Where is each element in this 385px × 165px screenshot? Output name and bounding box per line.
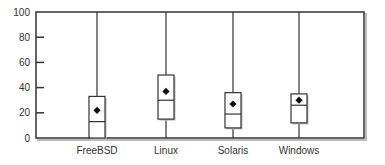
box-plot-chart: 020406080100 FreeBSDLinuxSolarisWindows	[0, 0, 385, 165]
x-category-label: FreeBSD	[76, 145, 117, 156]
y-tick-label: 80	[19, 32, 31, 43]
iqr-box	[158, 75, 174, 119]
y-tick-label: 20	[19, 107, 31, 118]
x-axis: FreeBSDLinuxSolarisWindows	[76, 145, 319, 156]
x-category-label: Windows	[279, 145, 320, 156]
iqr-box	[89, 96, 105, 138]
plot-frame	[36, 12, 366, 140]
y-tick-label: 40	[19, 82, 31, 93]
iqr-box	[225, 93, 241, 128]
plot-area-frame	[36, 12, 364, 138]
y-tick-label: 60	[19, 57, 31, 68]
y-tick-label: 100	[13, 7, 30, 18]
y-tick-label: 0	[24, 133, 30, 144]
x-category-label: Solaris	[218, 145, 249, 156]
x-category-label: Linux	[154, 145, 178, 156]
